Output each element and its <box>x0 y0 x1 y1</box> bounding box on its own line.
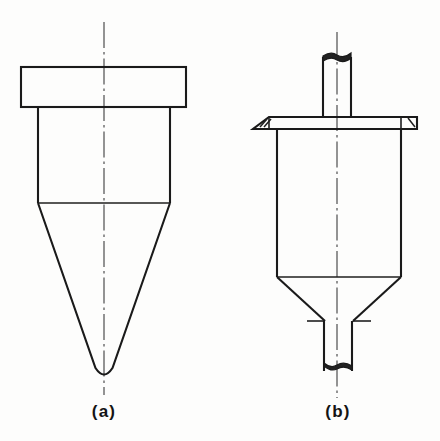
figure-b-bottom-tube-rim <box>324 363 352 370</box>
figure-a-caption: (a) <box>92 402 116 422</box>
figure-b-cone-right-profile <box>353 277 401 321</box>
figure-b-cone-left-profile <box>277 277 325 321</box>
figure-b-group <box>253 32 417 398</box>
figure-a-group <box>21 22 186 395</box>
figure-b-top-tube-rim <box>323 53 351 62</box>
figure-plate: (a) (b) <box>0 0 440 441</box>
figure-b-brim-flange <box>253 117 417 129</box>
figure-b-caption: (b) <box>325 402 350 422</box>
technical-drawing-svg <box>0 0 440 441</box>
figure-b-flange-hatch-3 <box>408 118 415 127</box>
